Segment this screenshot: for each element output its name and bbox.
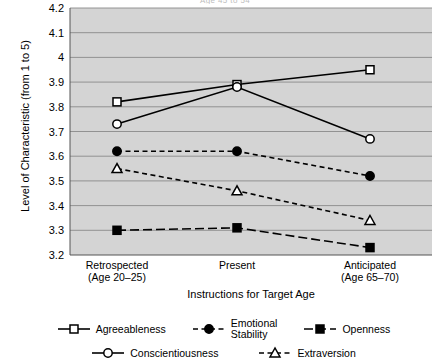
legend-item-agreeableness[interactable]: Agreeableness — [57, 322, 166, 336]
chart-canvas — [0, 0, 447, 364]
x-tick-line1: Anticipated — [310, 259, 430, 271]
data-point — [233, 224, 241, 232]
data-point — [233, 147, 241, 155]
y-tick-label: 3.4 — [30, 201, 64, 211]
y-tick-label: 3.9 — [30, 77, 64, 87]
legend-item-openness[interactable]: Openness — [303, 322, 390, 336]
x-tick-label: Anticipated(Age 65–70) — [310, 259, 430, 283]
x-tick-line2: (Age 65–70) — [310, 271, 430, 283]
legend-marker — [258, 346, 292, 360]
y-tick-label: 3.7 — [30, 127, 64, 137]
data-point — [113, 98, 121, 106]
data-point — [113, 226, 121, 234]
legend-symbol — [316, 325, 324, 333]
x-tick-label: Present — [177, 259, 297, 271]
data-point — [113, 147, 121, 155]
x-tick-line2: (Age 20–25) — [57, 271, 177, 283]
data-point — [366, 172, 374, 180]
legend-label: Emotional Stability — [231, 318, 278, 340]
y-tick-label: 3.3 — [30, 225, 64, 235]
legend-row-2: ConscientiousnessExtraversion — [0, 346, 447, 360]
y-tick-label: 4 — [30, 52, 64, 62]
x-tick-line1: Retrospected — [57, 259, 177, 271]
data-point — [233, 83, 241, 91]
chart-legend: AgreeablenessEmotional StabilityOpenness… — [0, 318, 447, 360]
legend-label: Extraversion — [297, 348, 355, 359]
x-tick-label: Retrospected(Age 20–25) — [57, 259, 177, 283]
y-tick-label: 4.1 — [30, 28, 64, 38]
y-tick-label: 4.2 — [30, 3, 64, 13]
legend-row-1: AgreeablenessEmotional StabilityOpenness — [0, 318, 447, 340]
legend-label: Openness — [342, 324, 390, 335]
legend-marker — [57, 322, 91, 336]
legend-marker — [303, 322, 337, 336]
legend-symbol — [104, 349, 112, 357]
y-tick-label: 3.6 — [30, 151, 64, 161]
data-point — [366, 135, 374, 143]
legend-item-conscientiousness[interactable]: Conscientiousness — [91, 346, 218, 360]
x-tick-line1: Present — [177, 259, 297, 271]
y-tick-label: 3.5 — [30, 176, 64, 186]
legend-item-extraversion[interactable]: Extraversion — [258, 346, 355, 360]
x-axis-title: Instructions for Target Age — [70, 288, 432, 300]
legend-marker — [192, 322, 226, 336]
legend-symbol — [205, 325, 213, 333]
y-tick-label: 3.8 — [30, 102, 64, 112]
data-point — [366, 244, 374, 252]
legend-label: Conscientiousness — [130, 348, 218, 359]
legend-marker — [91, 346, 125, 360]
legend-item-emotional-stability[interactable]: Emotional Stability — [192, 318, 278, 340]
data-point — [366, 66, 374, 74]
legend-symbol — [70, 325, 78, 333]
data-point — [113, 120, 121, 128]
legend-label: Agreeableness — [96, 324, 166, 335]
